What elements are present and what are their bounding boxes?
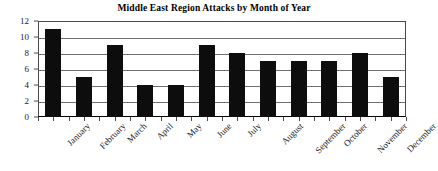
bar-slot: [314, 21, 345, 117]
bar[interactable]: [291, 61, 307, 117]
bar[interactable]: [168, 85, 184, 117]
bar[interactable]: [229, 53, 245, 117]
bar-slot: [38, 21, 69, 117]
x-tick-label: March: [125, 121, 149, 145]
bar[interactable]: [352, 53, 368, 117]
y-axis: 024681012: [0, 21, 38, 117]
x-tick-mark: [406, 117, 407, 121]
x-tick-label: May: [185, 121, 204, 140]
bar-slot: [161, 21, 192, 117]
bar-slot: [130, 21, 161, 117]
bar-slot: [345, 21, 376, 117]
y-tick-label: 4: [25, 80, 30, 90]
bar[interactable]: [137, 85, 153, 117]
x-tick-label: September: [314, 121, 348, 155]
x-tick-label: April: [155, 121, 176, 142]
bar-slot: [191, 21, 222, 117]
bar[interactable]: [383, 77, 399, 117]
y-tick-label: 10: [20, 32, 29, 42]
bar-series: [38, 21, 406, 117]
bar-slot: [69, 21, 100, 117]
x-tick-label: November: [375, 121, 409, 155]
y-tick-label: 0: [25, 112, 30, 122]
y-tick-label: 2: [25, 96, 30, 106]
bar-slot: [99, 21, 130, 117]
x-tick-label: December: [405, 121, 438, 154]
x-tick-label: July: [245, 121, 263, 139]
bar-slot: [283, 21, 314, 117]
x-tick-label: January: [65, 121, 92, 148]
y-tick-label: 6: [25, 64, 30, 74]
x-axis-labels: JanuaryFebruaryMarchAprilMayJuneJulyAugu…: [38, 121, 406, 171]
bar-slot: [222, 21, 253, 117]
y-tick-label: 8: [25, 48, 30, 58]
bar-slot: [375, 21, 406, 117]
x-tick-label: June: [215, 121, 234, 140]
x-tick-label: August: [279, 121, 304, 146]
bar[interactable]: [199, 45, 215, 117]
chart-title: Middle East Region Attacks by Month of Y…: [0, 3, 428, 13]
x-tick-label: February: [97, 121, 127, 151]
bar-slot: [253, 21, 284, 117]
bar[interactable]: [321, 61, 337, 117]
x-tick-label: October: [341, 121, 369, 149]
bar[interactable]: [76, 77, 92, 117]
y-tick-label: 12: [20, 16, 29, 26]
bar[interactable]: [107, 45, 123, 117]
bar[interactable]: [45, 29, 61, 117]
bar[interactable]: [260, 61, 276, 117]
